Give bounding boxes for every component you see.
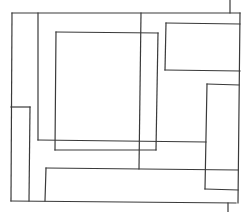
- segment-lower-top: [46, 168, 238, 170]
- segment-inner-top: [56, 32, 158, 33]
- segment-right-rect-top: [207, 84, 239, 85]
- segment-lower-left: [45, 168, 46, 201]
- segment-inner-right: [156, 33, 158, 150]
- segment-v-141: [139, 13, 141, 169]
- segment-tr-left: [165, 23, 166, 70]
- segment-h-140: [38, 140, 206, 142]
- segment-right-rect-bottom: [205, 189, 238, 190]
- segment-right-rect-left: [205, 84, 207, 189]
- segment-tr-bottom: [165, 70, 240, 71]
- segment-tr-top: [166, 23, 240, 24]
- segment-inner-left: [55, 32, 56, 150]
- segment-outer-right: [238, 13, 240, 203]
- segment-small-left-right: [29, 107, 30, 201]
- line-diagram: [0, 0, 251, 212]
